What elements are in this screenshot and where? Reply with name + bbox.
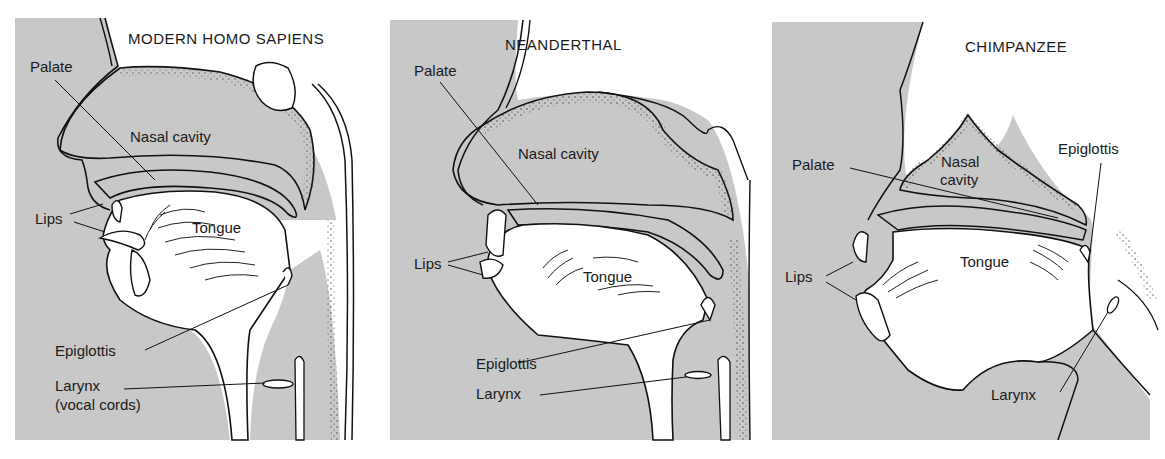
label-larynx: Larynx — [476, 385, 521, 402]
panel-title: CHIMPANZEE — [965, 38, 1067, 55]
label-tongue: Tongue — [192, 219, 241, 236]
panel-title: NEANDERTHAL — [505, 36, 622, 53]
panel-chimpanzee: CHIMPANZEE Palate Nasal cavity Epiglotti… — [768, 0, 1165, 459]
label-palate: Palate — [30, 58, 73, 75]
label-epiglottis: Epiglottis — [1058, 140, 1119, 157]
label-nasal-cavity: Nasal cavity — [130, 128, 211, 145]
panel-neanderthal: NEANDERTHAL Palate Nasal cavity Lips Ton… — [388, 0, 763, 459]
label-tongue: Tongue — [583, 268, 632, 285]
label-lips: Lips — [414, 255, 442, 272]
chimpanzee-vocal-tract-illustration — [768, 0, 1165, 459]
label-palate: Palate — [414, 62, 457, 79]
panel-modern-homo-sapiens: MODERN HOMO SAPIENS Palate Nasal cavity … — [0, 0, 385, 459]
panel-title: MODERN HOMO SAPIENS — [128, 30, 324, 47]
label-larynx-note: (vocal cords) — [55, 396, 141, 413]
label-epiglottis: Epiglottis — [55, 342, 116, 359]
label-epiglottis: Epiglottis — [476, 355, 537, 372]
label-lips: Lips — [35, 210, 63, 227]
label-nasal-cavity: Nasal cavity — [518, 145, 599, 162]
label-larynx: Larynx — [991, 386, 1036, 403]
label-tongue: Tongue — [960, 253, 1009, 270]
label-nasal-cavity-line2: cavity — [940, 171, 978, 188]
label-nasal-cavity-line1: Nasal — [941, 153, 979, 170]
label-lips: Lips — [785, 268, 813, 285]
label-palate: Palate — [792, 156, 835, 173]
label-larynx: Larynx — [55, 377, 100, 394]
